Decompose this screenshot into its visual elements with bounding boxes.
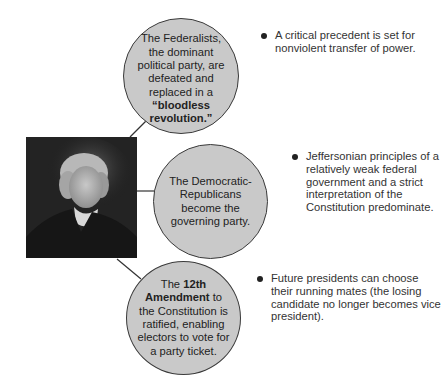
bullet-dot-icon	[257, 276, 263, 282]
node-democratic-republicans: The Democratic-Republicans become the go…	[153, 144, 268, 259]
bullet-dot-icon	[292, 154, 298, 160]
bullet-twelfth-amendment: Future presidents can choose their runni…	[257, 272, 441, 323]
node-text-part: The Federalists, the dominant political …	[138, 32, 225, 97]
node-text: The Federalists, the dominant political …	[133, 26, 229, 125]
node-text-part: The	[161, 278, 183, 290]
bullet-federalists: A critical precedent is set for nonviole…	[261, 29, 442, 55]
connector-line-3	[117, 259, 141, 279]
node-federalists: The Federalists, the dominant political …	[123, 18, 239, 134]
portrait-icon	[26, 137, 137, 258]
node-text-bold: “bloodless revolution.”	[150, 99, 213, 124]
node-text: The 12th Amendment to the Constitution i…	[136, 278, 231, 358]
bullet-text: Jeffersonian principles of a relatively …	[306, 150, 439, 213]
node-text: The Democratic-Republicans become the go…	[163, 175, 258, 228]
bullet-text: A critical precedent is set for nonviole…	[275, 29, 416, 54]
node-text-part: The Democratic-Republicans become the go…	[169, 175, 252, 227]
bullet-text: Future presidents can choose their runni…	[271, 272, 441, 322]
bullet-democratic-republicans: Jeffersonian principles of a relatively …	[292, 150, 442, 214]
node-twelfth-amendment: The 12th Amendment to the Constitution i…	[126, 261, 241, 375]
jefferson-portrait	[26, 137, 137, 258]
bullet-dot-icon	[261, 33, 267, 39]
